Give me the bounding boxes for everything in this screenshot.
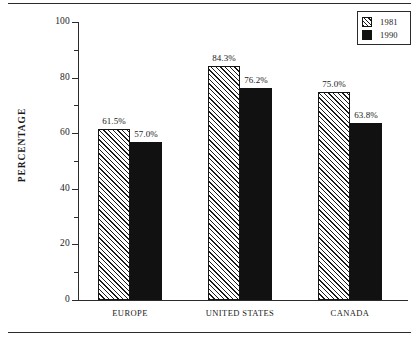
- bar-value-label: 76.2%: [233, 76, 279, 85]
- x-axis-line: [78, 300, 408, 301]
- y-axis-tick: [72, 133, 78, 134]
- y-axis-tick: [72, 189, 78, 190]
- y-axis-minor-tick: [74, 217, 78, 218]
- y-axis-minor-tick: [74, 105, 78, 106]
- y-axis-title: PERCENTAGE: [17, 80, 27, 210]
- y-axis-tick: [72, 22, 78, 23]
- y-axis-tick: [72, 244, 78, 245]
- bar-chart: PERCENTAGE 020406080100 61.5%57.0%84.3%7…: [0, 0, 419, 340]
- bar-value-label: 61.5%: [91, 117, 137, 126]
- bar-united-states-1990[interactable]: [240, 88, 272, 300]
- legend-swatch-icon: [362, 17, 372, 27]
- y-axis-tick-label: 0: [30, 295, 70, 305]
- y-axis-tick-label: 80: [30, 73, 70, 83]
- legend-entries: 19811990: [362, 15, 407, 41]
- bar-europe-1990[interactable]: [130, 142, 162, 300]
- bar-value-label: 63.8%: [343, 111, 389, 120]
- bar-value-label: 75.0%: [311, 80, 357, 89]
- y-axis-minor-tick: [74, 161, 78, 162]
- bar-canada-1990[interactable]: [350, 123, 382, 300]
- category-label-united-states: UNITED STATES: [195, 308, 285, 318]
- legend-label: 1981: [380, 17, 398, 27]
- y-axis-tick: [72, 78, 78, 79]
- y-axis-tick: [72, 300, 78, 301]
- bar-canada-1981[interactable]: [318, 92, 350, 301]
- bar-value-label: 84.3%: [201, 54, 247, 63]
- y-axis-tick-label: 20: [30, 239, 70, 249]
- y-axis-tick-label: 60: [30, 128, 70, 138]
- legend-swatch-icon: [362, 30, 372, 40]
- bar-united-states-1981[interactable]: [208, 66, 240, 300]
- y-axis-line: [78, 22, 79, 300]
- legend-item-1981[interactable]: 1981: [362, 15, 407, 28]
- category-label-canada: CANADA: [305, 308, 395, 318]
- y-axis-tick-label: 40: [30, 184, 70, 194]
- y-axis-tick-label: 100: [30, 17, 70, 27]
- legend-item-1990[interactable]: 1990: [362, 28, 407, 41]
- category-label-europe: EUROPE: [85, 308, 175, 318]
- bar-value-label: 57.0%: [123, 130, 169, 139]
- y-axis-minor-tick: [74, 50, 78, 51]
- chart-legend: 19811990: [357, 11, 411, 45]
- bar-europe-1981[interactable]: [98, 129, 130, 300]
- y-axis-minor-tick: [74, 272, 78, 273]
- legend-label: 1990: [380, 30, 398, 40]
